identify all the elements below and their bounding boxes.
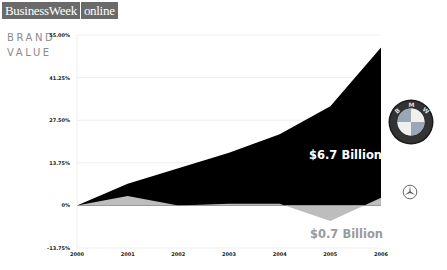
x-tick-label: 2006 xyxy=(374,251,388,257)
x-axis-ticks: 2000200120022003200420052006 xyxy=(70,251,388,257)
mercedes-value-label: $0.7 Billion xyxy=(310,227,383,241)
bmw-value-label: $6.7 Billion xyxy=(309,148,382,162)
y-tick-label: 0% xyxy=(62,202,71,208)
y-tick-label: 13.75% xyxy=(49,160,70,166)
x-tick-label: 2003 xyxy=(222,251,236,257)
x-tick-label: 2001 xyxy=(121,251,135,257)
svg-text:M: M xyxy=(409,101,415,108)
y-tick-label: -13.75% xyxy=(47,245,70,251)
y-tick-label: 27.50% xyxy=(49,117,70,123)
x-tick-label: 2004 xyxy=(273,251,287,257)
y-tick-label: 41.25% xyxy=(49,75,70,81)
x-tick-label: 2005 xyxy=(323,251,337,257)
y-axis-ticks: 55.00%41.25%27.50%13.75%0%-13.75% xyxy=(47,32,70,251)
bmw-logo-icon: B M W xyxy=(388,99,434,145)
y-tick-label: 55.00% xyxy=(49,32,70,38)
x-tick-label: 2000 xyxy=(70,251,84,257)
mercedes-logo-icon xyxy=(402,184,418,200)
x-tick-label: 2002 xyxy=(171,251,185,257)
bmw-series-area xyxy=(77,47,381,205)
